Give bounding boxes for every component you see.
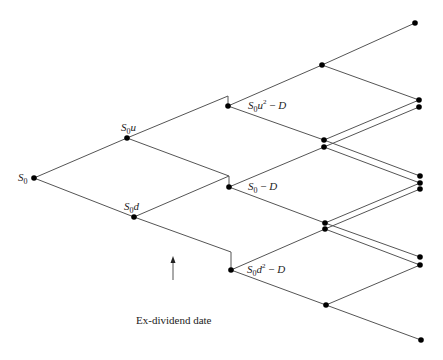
label-s0: S0 bbox=[18, 171, 28, 186]
arrow-up-icon bbox=[171, 256, 176, 263]
label-s0d: S0d bbox=[124, 200, 139, 215]
binomial-tree-diagram: S0 S0u S0d S0u2 − D S0 − D S0d2 − D Ex-d… bbox=[0, 0, 443, 360]
ex-dividend-caption: Ex-dividend date bbox=[136, 314, 211, 326]
label-s0-minus-d: S0 − D bbox=[248, 180, 277, 195]
label-s0u: S0u bbox=[121, 121, 136, 136]
label-s0u2-minus-d: S0u2 − D bbox=[248, 98, 286, 114]
label-s0d2-minus-d: S0d2 − D bbox=[247, 262, 285, 278]
tree-lines bbox=[0, 0, 443, 360]
